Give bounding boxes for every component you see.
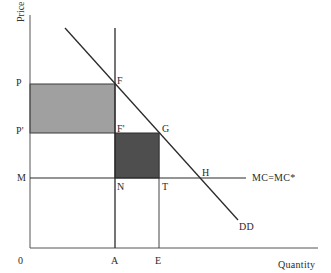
point-h-label: H [202,168,210,178]
price-p-label: P [16,78,22,88]
point-n-label: N [117,182,125,192]
economics-diagram: Price Quantity 0 P P' M A E F F' G H N T… [0,0,331,273]
point-f-prime-label: F' [117,124,125,134]
origin-label: 0 [18,256,23,266]
light-shaded-rect [30,84,115,133]
demand-curve-label: DD [239,222,254,232]
quantity-e-label: E [155,256,161,266]
quantity-a-label: A [111,256,119,266]
x-axis-title: Quantity [278,260,315,270]
price-p-prime-label: P' [16,126,24,136]
point-g-label: G [162,124,170,134]
price-m-label: M [17,173,26,183]
point-f-label: F [117,76,123,86]
diagram-canvas [0,0,331,273]
mc-curve-label: MC=MC* [252,173,296,183]
point-t-label: T [162,182,168,192]
dark-shaded-rect [115,133,159,178]
y-axis-title: Price [16,1,26,22]
